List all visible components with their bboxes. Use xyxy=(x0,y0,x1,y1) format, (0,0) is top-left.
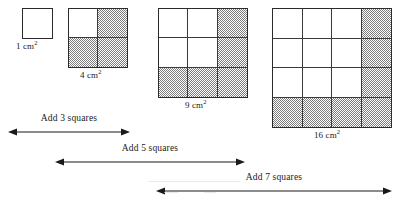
grid-cell-shaded xyxy=(188,68,217,97)
square-grid-1 xyxy=(22,8,53,39)
area-label-3: 9 cm2 xyxy=(185,100,207,111)
grid-cell-shaded xyxy=(332,98,362,128)
figure-canvas: 1 cm2 4 cm2 9 cm2 16 cm2 Add 3 squares A… xyxy=(0,0,406,201)
area-label-3-exponent: 2 xyxy=(203,98,206,105)
scan-artifact xyxy=(164,192,178,193)
grid-cell-shaded xyxy=(218,68,247,97)
arrow-add-5: Add 5 squares xyxy=(55,143,245,167)
grid-cell xyxy=(332,68,362,98)
area-label-4-text: 16 cm xyxy=(314,130,337,140)
grid-cell xyxy=(303,68,333,98)
area-label-4: 16 cm2 xyxy=(314,130,340,141)
arrow-head-right xyxy=(121,129,130,136)
arrow-add-5-label: Add 5 squares xyxy=(55,143,245,154)
grid-cell xyxy=(188,38,217,67)
arrow-head-right xyxy=(236,159,245,166)
area-label-4-exponent: 2 xyxy=(337,128,340,135)
area-label-1-text: 1 cm xyxy=(16,41,34,51)
scan-artifact xyxy=(204,192,216,193)
grid-cell-shaded xyxy=(362,98,392,128)
grid-cell-shaded xyxy=(362,9,392,39)
arrow-add-7: Add 7 squares xyxy=(156,172,392,196)
grid-cell xyxy=(159,9,188,38)
double-headed-arrow xyxy=(55,155,245,169)
grid-cell xyxy=(273,39,303,69)
arrow-add-3-label: Add 3 squares xyxy=(8,113,130,124)
grid-cell-shaded xyxy=(98,9,127,38)
grid-cell-shaded xyxy=(218,38,247,67)
grid-cell-shaded xyxy=(98,38,127,67)
grid-cell xyxy=(23,9,52,38)
double-headed-arrow xyxy=(156,184,392,198)
double-headed-arrow xyxy=(8,125,130,139)
arrow-head-left xyxy=(8,129,17,136)
area-label-1-exponent: 2 xyxy=(34,39,37,46)
grid-cell xyxy=(303,9,333,39)
grid-cell-shaded xyxy=(273,98,303,128)
arrow-add-3: Add 3 squares xyxy=(8,113,130,137)
grid-cell-shaded xyxy=(218,9,247,38)
square-grid-4 xyxy=(272,8,392,128)
grid-cell xyxy=(332,39,362,69)
area-label-2-text: 4 cm xyxy=(80,70,98,80)
area-label-2-exponent: 2 xyxy=(98,68,101,75)
grid-cell-shaded xyxy=(69,38,98,67)
grid-cell-shaded xyxy=(362,39,392,69)
grid-cell xyxy=(273,68,303,98)
arrow-head-left xyxy=(156,188,165,195)
arrow-head-right xyxy=(383,188,392,195)
grid-cell-shaded xyxy=(303,98,333,128)
grid-cell xyxy=(188,9,217,38)
scan-artifact xyxy=(148,181,240,182)
area-label-2: 4 cm2 xyxy=(80,70,102,81)
square-grid-3 xyxy=(158,8,248,98)
area-label-1: 1 cm2 xyxy=(16,41,38,52)
arrow-head-left xyxy=(55,159,64,166)
grid-cell-shaded xyxy=(159,68,188,97)
grid-cell xyxy=(303,39,333,69)
grid-cell xyxy=(332,9,362,39)
grid-cell xyxy=(69,9,98,38)
grid-cell xyxy=(159,38,188,67)
grid-cell-shaded xyxy=(362,68,392,98)
grid-cell xyxy=(273,9,303,39)
square-grid-2 xyxy=(68,8,128,68)
area-label-3-text: 9 cm xyxy=(185,100,203,110)
